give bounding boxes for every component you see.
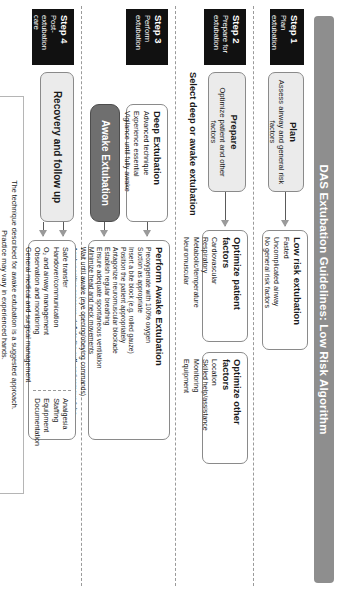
plan-subtitle: Assess airway and general risk factors [268,79,286,185]
perform-awake-extubation-node: Perform Awake Extubation Preoxygenate wi… [88,240,170,440]
prepare-title: Prepare [229,79,240,185]
list-item: Respiratory [200,237,209,335]
plan-title: Plan [288,79,299,185]
step-number: Step 4 [58,15,69,60]
deep-extubation-node: Deep Extubation Advanced technique Exper… [126,104,168,222]
arrow-recovery-1 [63,222,64,236]
step-label: Post-extubation care [31,15,57,60]
followup-list-a: Safe transfer Handover/communication O₂ … [22,247,69,382]
arrow-prepare-to-optimize [225,192,226,226]
arrow-recovery-2 [43,222,44,236]
list-item: Equipment [41,398,50,446]
list-item: Handover/communication [50,247,59,382]
list-item: No general risk factors [262,237,271,343]
optimize-other-title: Optimize other factors [220,359,243,457]
optimize-patient-node: Optimize patient factors Cardiovascular … [202,230,248,342]
list-item: Cardiovascular [209,237,218,335]
optimize-other-list: Location Skilled help/assistance Monitor… [181,359,218,457]
list-item: Preoxygenate with 100% oxygen [144,247,152,433]
row-divider [253,6,254,586]
arrow-plan-to-lowrisk [285,192,286,226]
low-risk-title: Low risk extubation [292,237,303,343]
step-number: Step 1 [288,15,299,60]
arrow-to-deep [147,222,148,236]
list-item: Experience essential [131,111,140,215]
prepare-node: Prepare Optimize patient and other facto… [208,72,246,192]
awake-extubation-title: Awake Extubation [99,120,111,206]
followup-list-b: Analgesia Staffing Equipment Documentati… [32,398,69,446]
list-item: Skilled help/assistance [200,359,209,457]
optimize-patient-title: Optimize patient factors [220,237,243,335]
list-item: Vigilance until fully awake [122,111,131,215]
list-item: Observation and monitoring [32,247,41,382]
step-block-4: Step 4 Post-extubation care [32,9,74,65]
page-title: DAS Extubation Guidelines: Low Risk Algo… [314,16,334,583]
list-item: Wait until awake (eye opening/obeying co… [78,247,86,433]
list-item: Documentation [32,398,41,446]
followup-node: Safe transfer Handover/communication O₂ … [28,240,76,440]
list-item: Position the patient appropriately [119,247,127,433]
step-block-1: Step 1 Plan extubation [270,9,304,65]
list-item: Uncomplicated airway [271,237,280,343]
list-item: Location [209,359,218,457]
list-item: Staffing [50,398,59,446]
list-item: Insert a bite block (e.g. rolled gauze) [127,247,135,433]
list-item: Suction as appropriate [135,247,143,433]
arrow-to-awake [104,222,105,236]
step-block-3: Step 3 Perform extubation [126,9,168,65]
list-item: Safe transfer [60,247,69,382]
optimize-other-node: Optimize other factors Location Skilled … [202,352,248,464]
low-risk-node: Low risk extubation Fasted Uncomplicated… [262,230,308,350]
recovery-title: Recovery and follow up [51,91,63,203]
step-number: Step 3 [152,15,163,60]
step-label: Prepare for extubation [212,15,229,60]
list-item: Neuromuscular [181,237,190,335]
list-item: Antagonize neuromuscular blockade [111,247,119,433]
list-item: Monitoring [190,359,199,457]
list-item: Ensure adequate spontaneous ventilation [95,247,103,433]
optimize-patient-list: Cardiovascular Respiratory Metabolic/tem… [181,237,218,335]
step-label: Perform extubation [134,15,151,60]
list-item: O₂ and airway management [41,247,50,382]
list-item: Equipment [181,359,190,457]
footnote: The technique described for awake extuba… [0,96,24,494]
list-item: Metabolic/temperature [190,237,199,335]
list-item: Fasted [280,237,289,343]
footnote-line-2: Practice may vary in experienced hands. [0,105,9,485]
step-block-2: Step 2 Prepare for extubation [204,9,246,65]
followup-column-a: Safe transfer Handover/communication O₂ … [33,247,71,382]
list-item: Minimize head and neck movements [87,247,95,433]
prepare-subtitle: Optimize patient and other factors [209,79,227,185]
list-item: Establish regular breathing [103,247,111,433]
step-number: Step 2 [230,15,241,60]
algorithm-poster: DAS Extubation Guidelines: Low Risk Algo… [0,0,346,599]
plan-node: Plan Assess airway and general risk fact… [268,72,304,192]
deep-extubation-list: Advanced technique Experience essential … [122,111,150,215]
low-risk-list: Fasted Uncomplicated airway No general r… [262,237,290,343]
step-label: Plan extubation [270,15,287,60]
followup-column-b: Analgesia Staffing Equipment Documentati… [33,390,71,446]
row-divider [175,6,176,586]
select-extubation-label: Select deep or awake extubation [188,72,198,222]
list-item: Advanced technique [140,111,149,215]
recovery-node: Recovery and follow up [40,72,74,222]
awake-extubation-node: Awake Extubation [90,104,120,222]
list-item: Analgesia [60,398,69,446]
perform-awake-title: Perform Awake Extubation [154,247,165,433]
deep-extubation-title: Deep Extubation [152,111,163,215]
footnote-line-1: The technique described for awake extuba… [9,105,19,485]
